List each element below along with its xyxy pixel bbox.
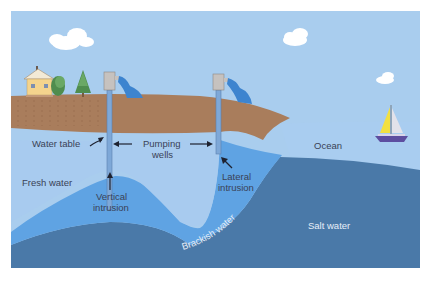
label-vertical-intrusion-2: intrusion xyxy=(93,202,129,213)
saltwater-intrusion-diagram: Water table Pumping wells Fresh water Ve… xyxy=(0,0,435,283)
label-vertical-intrusion: Vertical xyxy=(96,191,127,202)
label-water-table: Water table xyxy=(32,138,80,149)
label-lateral-intrusion-2: intrusion xyxy=(218,182,254,193)
label-fresh-water: Fresh water xyxy=(22,177,72,188)
label-ocean: Ocean xyxy=(314,140,342,151)
label-pumping-wells: Pumping xyxy=(143,138,181,149)
tree-icon xyxy=(51,76,65,96)
label-pumping-wells-2: wells xyxy=(151,149,173,160)
label-salt-water: Salt water xyxy=(308,220,350,231)
label-lateral-intrusion: Lateral xyxy=(222,171,251,182)
